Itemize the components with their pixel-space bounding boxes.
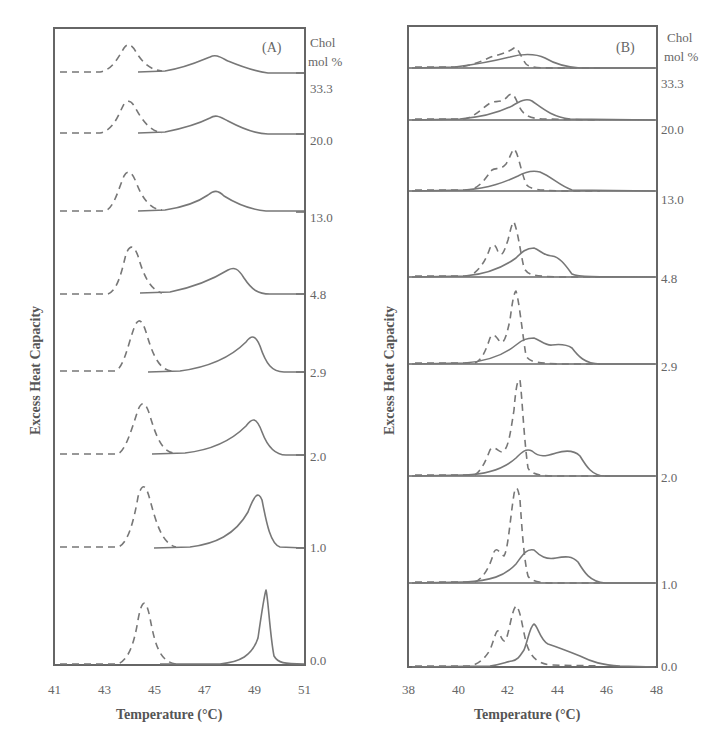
panel-b-row-separators — [408, 68, 657, 583]
panel-a-baseline-ticks — [296, 73, 305, 548]
panel-b-row-label: 2.9 — [661, 359, 677, 374]
panel-b-x-axis-title: Temperature (°C) — [474, 707, 581, 723]
panel-a-frame — [54, 28, 305, 665]
panel-b-y-axis-title: Excess Heat Capacity — [382, 306, 397, 435]
panel-b-row-label: 0.0 — [661, 659, 677, 674]
panel-b-tag: (B) — [616, 40, 635, 56]
panel-a-x-axis: 41 43 45 47 49 51 — [48, 682, 311, 697]
panel-a-row-label: 2.0 — [310, 449, 326, 464]
panel-a-row-label: 0.0 — [310, 653, 326, 668]
panel-b-curves — [412, 48, 655, 667]
panel-a-tag: (A) — [262, 40, 282, 56]
figure: (A) Chol mol % 33.3 20.0 13.0 4.8 2.9 2.… — [0, 0, 719, 744]
panel-b-x-tick: 42 — [501, 682, 514, 697]
panel-a-x-tick: 45 — [148, 682, 161, 697]
panel-a-legend-title-line2: mol % — [308, 54, 342, 69]
panel-a-row-label: 1.0 — [310, 540, 326, 555]
panel-b: (B) Chol mol % 33.3 20.0 13.0 4.8 2.9 2.… — [382, 26, 698, 723]
panel-b-x-axis: 38 40 42 44 46 48 — [402, 682, 663, 697]
panel-a-legend-title-line1: Chol — [310, 35, 336, 50]
panel-a-x-axis-title: Temperature (°C) — [116, 707, 223, 723]
panel-a-x-tick: 51 — [298, 682, 311, 697]
panel-b-x-tick: 40 — [452, 682, 465, 697]
panel-a-curves — [60, 45, 304, 664]
panel-a-y-axis-title: Excess Heat Capacity — [28, 306, 43, 435]
panel-a-x-tick: 47 — [198, 682, 212, 697]
panel-b-row-label: 13.0 — [661, 192, 684, 207]
panel-a-row-label: 13.0 — [310, 210, 333, 225]
panel-b-row-label: 4.8 — [661, 271, 677, 286]
panel-a-row-label: 33.3 — [310, 81, 333, 96]
panel-a-row-label: 20.0 — [310, 133, 333, 148]
panel-b-x-tick: 48 — [650, 682, 663, 697]
panel-a: (A) Chol mol % 33.3 20.0 13.0 4.8 2.9 2.… — [28, 28, 342, 723]
panel-b-legend-title-line1: Chol — [667, 30, 693, 45]
panel-a-row-label: 2.9 — [310, 365, 326, 380]
panel-a-row-label: 4.8 — [310, 287, 326, 302]
panel-b-x-tick: 46 — [600, 682, 614, 697]
panel-b-legend-title-line2: mol % — [664, 49, 698, 64]
panel-a-x-tick: 43 — [98, 682, 111, 697]
panel-b-x-tick: 38 — [402, 682, 415, 697]
panel-b-frame — [408, 26, 657, 667]
panel-b-x-tick: 44 — [551, 682, 565, 697]
panel-b-row-label: 1.0 — [661, 577, 677, 592]
panel-a-x-tick: 49 — [248, 682, 261, 697]
panel-b-row-label: 33.3 — [661, 76, 684, 91]
panel-b-row-label: 2.0 — [661, 470, 677, 485]
panel-b-row-label: 20.0 — [661, 122, 684, 137]
panel-a-x-tick: 41 — [48, 682, 61, 697]
